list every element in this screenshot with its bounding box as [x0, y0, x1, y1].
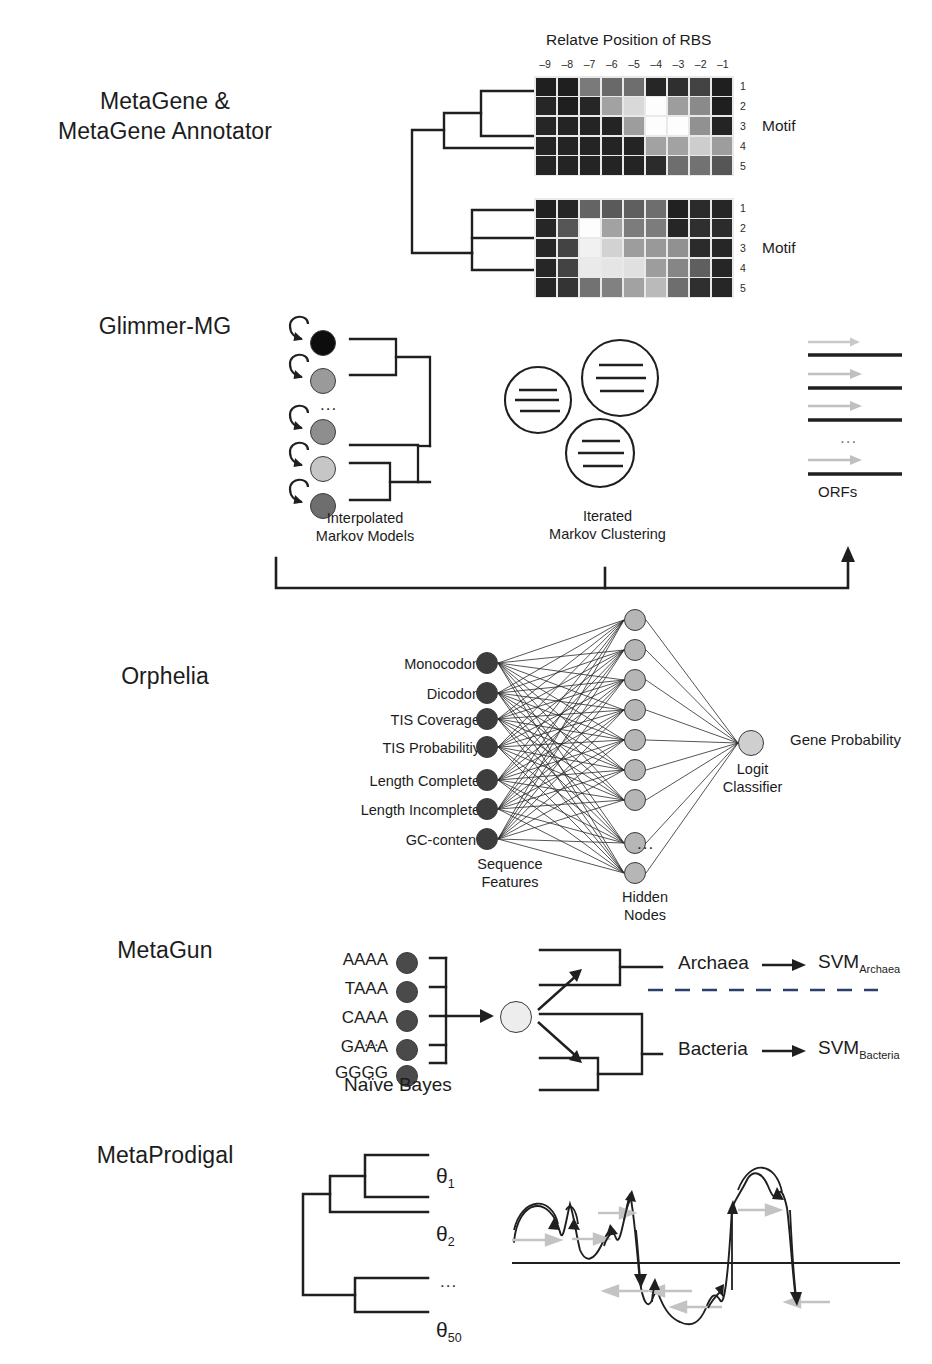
heatmap-cell: [712, 137, 733, 155]
method-label-metaprodigal: MetaProdigal: [35, 1140, 295, 1170]
heatmap-cell: [602, 78, 623, 96]
orphelia-input-node: [476, 682, 498, 704]
heatmap-row-label: 5: [740, 160, 746, 172]
heatmap-cell: [712, 259, 733, 277]
heatmap-cell: [668, 97, 689, 115]
heatmap-cell: [624, 200, 645, 218]
heatmap-cell: [668, 278, 689, 296]
glimmer-dendrogram: [350, 330, 500, 510]
heatmap-cell: [668, 137, 689, 155]
motif-heatmap-bottom: [534, 198, 734, 298]
heatmap-row-label: 3: [740, 242, 746, 254]
heatmap-cell: [536, 78, 557, 96]
heatmap-cell: [646, 117, 667, 135]
heatmap-cell: [536, 156, 557, 174]
metagun-kmer-node: [396, 1010, 418, 1032]
orphelia-hidden-node: [624, 609, 646, 631]
orphelia-input-node: [476, 769, 498, 791]
metagun-bacteria-label: Bacteria: [678, 1038, 748, 1060]
heatmap-row-label: 2: [740, 222, 746, 234]
heatmap-cell: [712, 97, 733, 115]
heatmap-cell: [668, 117, 689, 135]
orphelia-input-node: [476, 736, 498, 758]
metagun-archaea-arrow: [762, 956, 810, 974]
heatmap-cell: [624, 97, 645, 115]
heatmap-cell: [690, 239, 711, 257]
heatmap-cell: [558, 117, 579, 135]
heatmap-cell: [558, 278, 579, 296]
svm-bacteria-sub: Bacteria: [859, 1049, 899, 1061]
heatmap-cell: [536, 200, 557, 218]
theta-2-label: θ2: [436, 1222, 455, 1249]
orphelia-input-node: [476, 652, 498, 674]
theta-50-sub: 50: [448, 1331, 462, 1345]
heatmap-cell: [690, 97, 711, 115]
heatmap-cell: [690, 137, 711, 155]
heatmap-cell: [602, 278, 623, 296]
heatmap-cell: [580, 117, 601, 135]
heatmap-cell: [646, 239, 667, 257]
orphelia-feature-label: GC-content: [330, 832, 480, 849]
theta-1-label: θ1: [436, 1164, 455, 1191]
heatmap-cell: [690, 219, 711, 237]
heatmap-title: Relatve Position of RBS: [546, 31, 711, 49]
imm-ellipsis: ...: [320, 395, 337, 415]
orphelia-output-label: Gene Probability: [790, 731, 901, 748]
method-label-glimmer-mg: Glimmer-MG: [35, 311, 295, 341]
theta-50-base: θ: [436, 1318, 448, 1341]
heatmap-col-label: –5: [623, 58, 645, 70]
heatmap-cell: [624, 278, 645, 296]
orfs-caption: ORFs: [818, 483, 857, 500]
heatmap-cell: [580, 156, 601, 174]
orphelia-hidden-node: [624, 729, 646, 751]
svm-bacteria-base: SVM: [818, 1037, 859, 1058]
metagun-kmer-node: [396, 1039, 418, 1061]
heatmap-cell: [690, 259, 711, 277]
heatmap-cell: [712, 200, 733, 218]
theta-1-sub: 1: [448, 1177, 455, 1191]
svm-archaea-label: SVMArchaea: [818, 951, 900, 975]
heatmap-row-label: 1: [740, 80, 746, 92]
heatmap-col-label: –2: [690, 58, 712, 70]
heatmap-cell: [646, 97, 667, 115]
method-label-metagun: MetaGun: [35, 935, 295, 965]
heatmap-cell: [668, 219, 689, 237]
heatmap-cell: [690, 156, 711, 174]
heatmap-cell: [536, 259, 557, 277]
heatmap-cell: [602, 137, 623, 155]
heatmap-cell: [558, 137, 579, 155]
heatmap-cell: [624, 117, 645, 135]
metagun-kmer-label: TAAA: [310, 979, 388, 999]
heatmap-cell: [646, 156, 667, 174]
orphelia-feature-label: TIS Probabilitiy: [330, 740, 480, 757]
motif-label-top: Motif: [762, 117, 796, 135]
orphelia-hidden-caption: Hidden Nodes: [590, 888, 700, 924]
orphelia-hidden-ellipsis: ...: [637, 834, 654, 854]
metagun-kmer-label: AAAA: [310, 950, 388, 970]
heatmap-cell: [690, 278, 711, 296]
metagun-bacteria-arrow: [762, 1042, 810, 1060]
heatmap-cell: [580, 78, 601, 96]
heatmap-row-label: 5: [740, 282, 746, 294]
heatmap-cell: [712, 78, 733, 96]
orf-diagram: [800, 330, 920, 490]
svm-archaea-base: SVM: [818, 951, 859, 972]
heatmap-cell: [712, 156, 733, 174]
heatmap-row-label: 4: [740, 262, 746, 274]
heatmap-cell: [624, 137, 645, 155]
orphelia-hidden-node: [624, 789, 646, 811]
method-label-orphelia: Orphelia: [35, 661, 295, 691]
svm-bacteria-label: SVMBacteria: [818, 1037, 900, 1061]
orphelia-input-node: [476, 828, 498, 850]
heatmap-cell: [624, 219, 645, 237]
orphelia-feature-label: TIS Coverage: [330, 712, 480, 729]
heatmap-cell: [580, 278, 601, 296]
orphelia-input-node: [476, 798, 498, 820]
svm-archaea-sub: Archaea: [859, 963, 900, 975]
heatmap-cell: [690, 117, 711, 135]
motif-label-bottom: Motif: [762, 239, 796, 257]
heatmap-col-label: –6: [601, 58, 623, 70]
heatmap-cell: [646, 200, 667, 218]
heatmap-cell: [646, 278, 667, 296]
metagun-kmer-ellipsis: ...: [364, 1032, 380, 1049]
